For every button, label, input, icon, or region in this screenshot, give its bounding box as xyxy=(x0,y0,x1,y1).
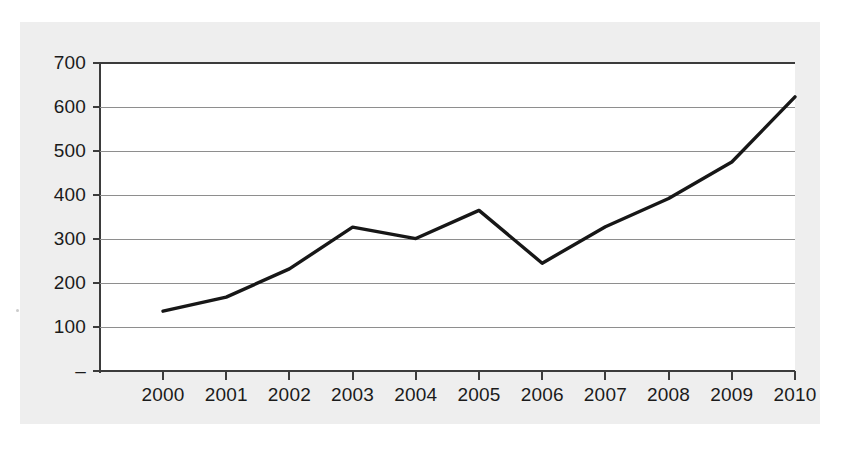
gridline-500 xyxy=(100,151,795,152)
x-tick-mark-2001 xyxy=(225,371,227,380)
y-tick-mark-200 xyxy=(93,282,100,284)
gridline-200 xyxy=(100,283,795,284)
y-axis-label-0: – xyxy=(26,361,86,380)
y-tick-mark-700 xyxy=(93,62,100,64)
gridline-700 xyxy=(100,62,795,64)
x-tick-mark-2006 xyxy=(541,371,543,380)
y-tick-mark-0 xyxy=(93,370,100,372)
gridline-100 xyxy=(100,327,795,328)
y-tick-mark-600 xyxy=(93,106,100,108)
x-axis-label-2008: 2008 xyxy=(634,385,704,404)
y-tick-mark-100 xyxy=(93,326,100,328)
plot-area xyxy=(100,63,795,371)
x-axis-label-2006: 2006 xyxy=(507,385,577,404)
gridline-0 xyxy=(100,370,795,372)
y-axis-label-200: 200 xyxy=(26,273,86,292)
x-axis-label-2004: 2004 xyxy=(381,385,451,404)
gridline-600 xyxy=(100,107,795,108)
x-tick-mark-2009 xyxy=(731,371,733,380)
x-axis-label-2000: 2000 xyxy=(128,385,198,404)
y-axis-label-300: 300 xyxy=(26,229,86,248)
x-tick-mark-2010 xyxy=(794,371,796,380)
x-tick-mark-2000 xyxy=(162,371,164,380)
y-tick-mark-400 xyxy=(93,194,100,196)
x-axis-label-2010: 2010 xyxy=(760,385,830,404)
x-tick-mark-2005 xyxy=(478,371,480,380)
x-axis-label-2003: 2003 xyxy=(318,385,388,404)
chart-figure: –100200300400500600700 20002001200220032… xyxy=(0,0,848,451)
x-tick-mark-2008 xyxy=(668,371,670,380)
x-axis-label-2005: 2005 xyxy=(444,385,514,404)
y-axis-label-700: 700 xyxy=(26,53,86,72)
y-axis-label-600: 600 xyxy=(26,97,86,116)
x-tick-mark-2003 xyxy=(352,371,354,380)
x-axis-label-2001: 2001 xyxy=(191,385,261,404)
y-tick-mark-500 xyxy=(93,150,100,152)
x-tick-mark-2002 xyxy=(288,371,290,380)
x-axis-label-2002: 2002 xyxy=(254,385,324,404)
y-tick-mark-300 xyxy=(93,238,100,240)
scan-artifact-speckle xyxy=(16,309,19,312)
x-axis-label-2009: 2009 xyxy=(697,385,767,404)
y-axis-label-400: 400 xyxy=(26,185,86,204)
gridline-300 xyxy=(100,239,795,240)
x-tick-mark-2004 xyxy=(415,371,417,380)
gridline-400 xyxy=(100,195,795,196)
x-tick-mark-2007 xyxy=(604,371,606,380)
y-axis-label-500: 500 xyxy=(26,141,86,160)
x-axis-label-2007: 2007 xyxy=(570,385,640,404)
y-axis-label-100: 100 xyxy=(26,317,86,336)
